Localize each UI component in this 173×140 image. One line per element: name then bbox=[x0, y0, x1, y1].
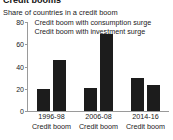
x-axis-year-label: 2014-16 bbox=[116, 112, 173, 122]
bar[interactable] bbox=[131, 78, 144, 111]
y-tick-mark bbox=[25, 89, 27, 90]
chart-title-text: Credit booms bbox=[3, 0, 123, 4]
bar[interactable] bbox=[53, 60, 66, 111]
credit-booms-chart: Credit booms Share of countries in a cre… bbox=[0, 0, 172, 140]
x-axis-labels: 1996-98Credit boom2006-08Credit boom2014… bbox=[27, 112, 169, 140]
y-tick-label: 20 bbox=[16, 85, 24, 92]
x-axis-sub-label: Credit boom bbox=[116, 122, 173, 132]
y-tick-label: 60 bbox=[16, 41, 24, 48]
y-tick-mark bbox=[25, 67, 27, 68]
y-tick-mark bbox=[25, 44, 27, 45]
y-tick-label: 40 bbox=[16, 63, 24, 70]
bar[interactable] bbox=[84, 88, 97, 111]
chart-subtitle: Share of countries in a credit boom bbox=[3, 8, 118, 17]
bar[interactable] bbox=[147, 85, 160, 111]
chart-title-cutoff: Credit booms bbox=[3, 0, 123, 4]
bar[interactable] bbox=[37, 89, 50, 111]
bar-groups bbox=[28, 22, 169, 111]
y-tick-label: 80 bbox=[16, 19, 24, 26]
bar[interactable] bbox=[100, 34, 113, 111]
x-axis-category: 2014-16Credit boom bbox=[116, 112, 173, 132]
plot-area: 020406080 bbox=[27, 22, 169, 111]
y-tick-mark bbox=[25, 22, 27, 23]
